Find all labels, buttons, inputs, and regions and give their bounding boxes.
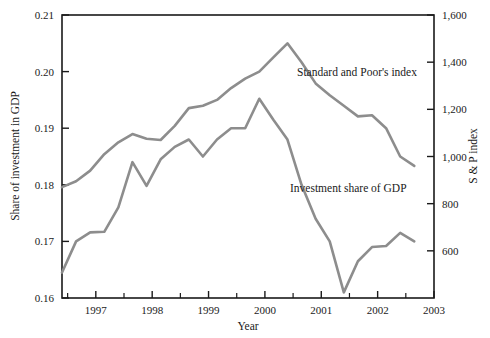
- y-axis-left-ticks: 0.160.170.180.190.200.21: [35, 9, 69, 304]
- plot-frame: [62, 15, 434, 298]
- dual-axis-line-chart: 0.160.170.180.190.200.21 6008001,0001,20…: [0, 0, 490, 338]
- y-tick-label-right: 1,600: [442, 9, 467, 21]
- y-tick-label-left: 0.16: [35, 292, 55, 304]
- x-tick-label: 2001: [310, 304, 332, 316]
- y-tick-label-left: 0.18: [35, 179, 55, 191]
- y-tick-label-right: 800: [442, 198, 459, 210]
- series-lines: [62, 43, 414, 292]
- x-axis-title: Year: [237, 320, 258, 332]
- x-tick-label: 2002: [367, 304, 389, 316]
- series-annotation: Standard and Poor's index: [297, 66, 417, 78]
- y-tick-label-left: 0.19: [35, 122, 55, 134]
- series-annotation: Investment share of GDP: [290, 182, 407, 194]
- x-axis-ticks: 1997199819992000200120022003: [68, 291, 446, 316]
- x-tick-label: 2003: [423, 304, 446, 316]
- y-tick-label-right: 1,000: [442, 151, 467, 163]
- y-tick-label-right: 1,400: [442, 56, 467, 68]
- y-tick-label-right: 1,200: [442, 103, 467, 115]
- x-tick-label: 1997: [85, 304, 108, 316]
- series-line-investment-share-of-gdp: [62, 99, 414, 293]
- chart-figure: 0.160.170.180.190.200.21 6008001,0001,20…: [0, 0, 490, 338]
- y-tick-label-left: 0.17: [35, 235, 55, 247]
- x-tick-label: 1999: [198, 304, 221, 316]
- y-tick-label-right: 600: [442, 245, 459, 257]
- y-axis-right-ticks: 6008001,0001,2001,4001,600: [427, 9, 467, 257]
- x-tick-label: 1998: [141, 304, 164, 316]
- y-tick-label-left: 0.20: [35, 66, 55, 78]
- y-axis-left-title: Share of investment in GDP: [9, 91, 21, 221]
- series-line-standard-and-poor-s-index: [62, 43, 414, 187]
- series-annotations: Standard and Poor's indexInvestment shar…: [290, 66, 417, 194]
- y-axis-right-title: S & P index: [467, 128, 479, 184]
- x-tick-label: 2000: [254, 304, 277, 316]
- y-tick-label-left: 0.21: [35, 9, 54, 21]
